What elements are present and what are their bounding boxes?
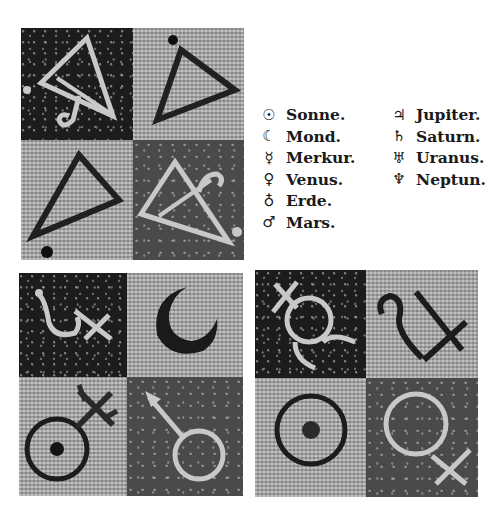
triangle-with-curl-icon (21, 28, 133, 140)
legend-label: Uranus. (416, 148, 484, 167)
triangle-icon (21, 140, 133, 260)
mars-mosaic-icon (127, 377, 243, 496)
legend-right-column: ♃Jupiter. ♄Saturn. ♅Uranus. ♆Neptun. (388, 104, 486, 190)
mosaic-tile-sun (255, 378, 366, 497)
legend-item: ☿Merkur. (258, 147, 355, 169)
legend-label: Saturn. (416, 127, 481, 146)
legend-item: ☉Sonne. (258, 104, 355, 126)
mosaic-tile-earth (19, 377, 127, 496)
mosaic-tile-mars (127, 377, 243, 496)
mars-symbol-icon: ♂ (258, 213, 280, 231)
mosaic-tile-jupiter (366, 270, 478, 378)
legend-label: Sonne. (286, 105, 345, 124)
sun-mosaic-icon (255, 378, 366, 497)
mosaic-tile-triangle (21, 140, 133, 260)
legend-item: ♅Uranus. (388, 147, 486, 169)
earth-symbol-icon: ♁ (258, 192, 280, 210)
earth-mosaic-icon (19, 377, 127, 496)
legend-left-column: ☉Sonne. ☾Mond. ☿Merkur. ♀Venus. ♁Erde. ♂… (258, 104, 355, 233)
legend-label: Venus. (286, 170, 343, 189)
legend-item: ♁Erde. (258, 190, 355, 212)
mosaic-tile-moon (127, 273, 243, 377)
legend-label: Neptun. (416, 170, 486, 189)
saturn-symbol-icon: ♄ (388, 127, 410, 145)
mosaic-panel-planets-left (19, 273, 243, 496)
triangle-icon (133, 28, 244, 140)
jupiter-symbol-icon: ♃ (388, 106, 410, 124)
legend-label: Jupiter. (416, 105, 481, 124)
mosaic-tile-triangle-curl (21, 28, 133, 140)
moon-mosaic-icon (127, 273, 243, 377)
uranus-symbol-icon: ♅ (388, 149, 410, 167)
legend-item: ♆Neptun. (388, 169, 486, 191)
neptune-symbol-icon: ♆ (388, 170, 410, 188)
legend-item: ♄Saturn. (388, 126, 486, 148)
jupiter-mosaic-icon (366, 270, 478, 378)
legend-label: Merkur. (286, 148, 355, 167)
legend-label: Mars. (286, 213, 336, 232)
venus-symbol-icon: ♀ (258, 170, 280, 188)
mosaic-panel-planets-right (255, 270, 478, 497)
mercury-mosaic-icon (255, 270, 366, 378)
mosaic-tile-mercury (255, 270, 366, 378)
legend-item: ♃Jupiter. (388, 104, 486, 126)
legend-label: Mond. (286, 127, 341, 146)
mosaic-tile-triangle (133, 28, 244, 140)
moon-symbol-icon: ☾ (258, 127, 280, 145)
sun-symbol-icon: ☉ (258, 106, 280, 124)
triangle-with-curl-icon (133, 140, 244, 260)
mercury-symbol-icon: ☿ (258, 149, 280, 167)
mosaic-tile-venus (366, 378, 478, 497)
legend-item: ☾Mond. (258, 126, 355, 148)
saturn-mosaic-icon (19, 273, 127, 377)
legend-item: ♀Venus. (258, 169, 355, 191)
mosaic-panel-triangles (21, 28, 244, 260)
legend-label: Erde. (286, 191, 332, 210)
venus-mosaic-icon (366, 378, 478, 497)
legend-item: ♂Mars. (258, 212, 355, 234)
mosaic-tile-saturn (19, 273, 127, 377)
mosaic-tile-triangle-curl (133, 140, 244, 260)
